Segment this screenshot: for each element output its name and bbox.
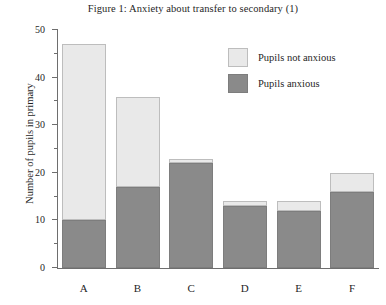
bar-group xyxy=(277,201,321,268)
x-axis-line xyxy=(57,268,379,269)
legend-label-not-anxious: Pupils not anxious xyxy=(258,52,336,63)
bar-segment-not-anxious xyxy=(116,97,160,187)
chart-legend: Pupils not anxious Pupils anxious xyxy=(228,47,336,99)
bar-group xyxy=(116,97,160,268)
bar-group xyxy=(62,44,106,268)
legend-swatch-anxious-icon xyxy=(228,74,248,93)
x-tick-label: B xyxy=(134,282,141,294)
bar-segment-anxious xyxy=(169,163,213,268)
bar-segment-anxious xyxy=(277,211,321,268)
bar-segment-anxious xyxy=(223,206,267,268)
bar-segment-anxious xyxy=(116,187,160,268)
bar-segment-not-anxious xyxy=(62,44,106,220)
legend-swatch-not-anxious-icon xyxy=(228,48,248,67)
y-tick-label: 40 xyxy=(35,71,45,82)
legend-label-anxious: Pupils anxious xyxy=(258,78,320,89)
y-tick-label: 20 xyxy=(35,166,45,177)
bar-segment-anxious xyxy=(330,192,374,268)
bar-segment-anxious xyxy=(62,220,106,268)
bar-group xyxy=(169,159,213,268)
y-tick-label: 30 xyxy=(35,119,45,130)
x-tick-label: C xyxy=(187,282,194,294)
y-tick-label: 50 xyxy=(35,24,45,35)
bar-group xyxy=(223,201,267,268)
x-tick-label: A xyxy=(80,282,88,294)
legend-item-anxious: Pupils anxious xyxy=(228,73,336,93)
y-axis-title: Number of pupils in primary xyxy=(24,44,35,244)
chart-title: Figure 1: Anxiety about transfer to seco… xyxy=(0,3,386,14)
bar-segment-not-anxious xyxy=(330,173,374,192)
bar-group xyxy=(330,173,374,268)
chart-figure: Figure 1: Anxiety about transfer to seco… xyxy=(0,0,386,305)
bar-segment-not-anxious xyxy=(277,201,321,211)
y-tick-label: 0 xyxy=(40,262,45,273)
legend-item-not-anxious: Pupils not anxious xyxy=(228,47,336,67)
x-tick-label: E xyxy=(295,282,302,294)
x-tick-label: F xyxy=(349,282,355,294)
y-tick-label: 10 xyxy=(35,214,45,225)
x-tick-label: D xyxy=(241,282,249,294)
